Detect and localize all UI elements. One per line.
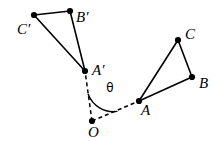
vertex-dot-c-prime	[31, 12, 37, 18]
vertex-dots	[31, 8, 195, 124]
vertex-dot-b	[189, 74, 195, 80]
rotation-rays	[85, 71, 139, 121]
vertex-labels: C′ B′ A′ C B A O θ	[17, 9, 208, 140]
vertex-dot-a-prime	[82, 68, 88, 74]
label-a: A	[140, 102, 151, 118]
vertex-dot-c	[175, 37, 181, 43]
label-b: B	[199, 75, 208, 91]
angle-arc-theta	[88, 94, 117, 111]
vertex-dot-o	[89, 118, 95, 124]
label-c-prime: C′	[17, 21, 31, 37]
triangle-a-b-c	[139, 40, 192, 101]
figure-canvas: C′ B′ A′ C B A O θ	[0, 0, 219, 141]
label-o: O	[88, 124, 99, 140]
vertex-dot-b-prime	[67, 8, 73, 14]
label-theta: θ	[106, 81, 113, 95]
label-c: C	[185, 26, 196, 42]
segment-c-prime-b-prime	[34, 11, 70, 15]
rotation-figure: C′ B′ A′ C B A O θ	[0, 0, 219, 141]
label-a-prime: A′	[91, 62, 105, 78]
label-b-prime: B′	[76, 9, 89, 25]
segment-c-b	[178, 40, 192, 77]
